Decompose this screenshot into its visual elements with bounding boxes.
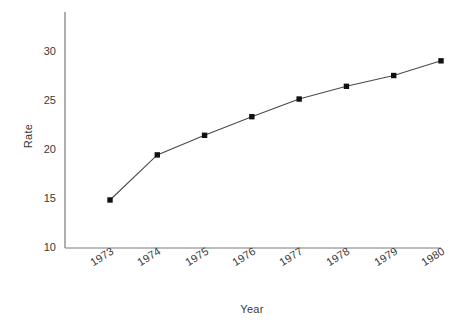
line-chart: Rate 1015202530 197319741975197619771978… (0, 0, 466, 330)
data-markers-group (107, 58, 443, 203)
y-axis-tick-label: 15 (30, 193, 56, 204)
data-point-marker (391, 73, 396, 78)
y-axis-tick-label: 20 (30, 144, 56, 155)
y-axis-tick-label: 10 (30, 242, 56, 253)
data-point-marker (296, 96, 301, 101)
data-point-marker (344, 84, 349, 89)
data-point-marker (249, 114, 254, 119)
plot-area (0, 0, 466, 330)
data-point-marker (155, 152, 160, 157)
y-axis-tick-label: 25 (30, 95, 56, 106)
data-point-marker (202, 133, 207, 138)
data-point-marker (107, 197, 112, 202)
data-series-line (110, 61, 441, 200)
x-axis-title: Year (0, 303, 466, 315)
data-point-marker (438, 58, 443, 63)
y-axis-tick-label: 30 (30, 46, 56, 57)
